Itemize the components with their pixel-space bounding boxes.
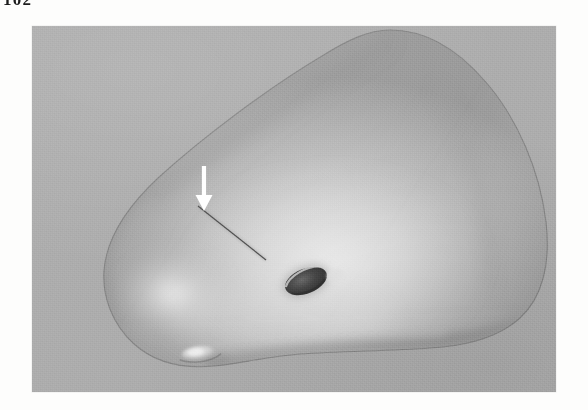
scanned-page: 102 <box>0 0 588 410</box>
figure-plate <box>32 26 556 392</box>
pointer-arrow <box>32 26 556 392</box>
page-number: 102 <box>3 0 32 8</box>
render-stage <box>32 26 556 392</box>
